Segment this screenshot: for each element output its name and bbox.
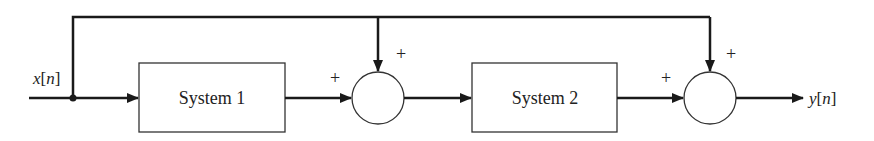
summer-2-left-plus: + [661,68,671,88]
input-label: x[n] [32,69,60,88]
summing-junction-1 [352,72,404,124]
summing-junction-2 [684,72,736,124]
system-2-block: System 2 [472,63,617,132]
system-1-label: System 1 [179,88,246,108]
summer-1-top-plus: + [396,44,406,64]
system-2-label: System 2 [512,88,579,108]
summer-2-top-plus: + [726,44,736,64]
output-label: y[n] [807,89,836,108]
system-1-block: System 1 [139,63,285,132]
summer-1-left-plus: + [330,68,340,88]
block-diagram: x[n] System 1 + + System 2 + + y[n] [0,0,874,141]
